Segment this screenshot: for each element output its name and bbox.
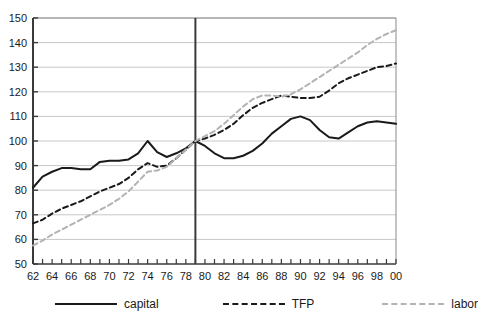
x-tick-label-82: 82 bbox=[218, 270, 230, 282]
x-tick-label-98: 98 bbox=[371, 270, 383, 282]
chart-legend: capital TFP labor bbox=[0, 292, 410, 316]
legend-label-capital: capital bbox=[124, 297, 159, 311]
legend-item-capital: capital bbox=[55, 297, 159, 311]
y-tick-label-80: 80 bbox=[15, 184, 27, 196]
x-tick-label-62: 62 bbox=[27, 270, 39, 282]
x-tick-label-70: 70 bbox=[103, 270, 115, 282]
y-tick-label-110: 110 bbox=[9, 110, 27, 122]
x-tick-label-94: 94 bbox=[333, 270, 345, 282]
series-line-tfp bbox=[33, 64, 396, 224]
data-series-group bbox=[33, 30, 396, 245]
y-tick-label-50: 50 bbox=[15, 258, 27, 270]
series-line-labor bbox=[33, 30, 396, 245]
y-tick-label-90: 90 bbox=[15, 160, 27, 172]
y-tick-label-70: 70 bbox=[15, 209, 27, 221]
gridlines bbox=[33, 18, 396, 239]
y-tick-label-100: 100 bbox=[9, 135, 27, 147]
x-tick-label-74: 74 bbox=[142, 270, 154, 282]
caption-artifact bbox=[10, 314, 80, 321]
y-tick-label-60: 60 bbox=[15, 233, 27, 245]
y-tick-label-140: 140 bbox=[9, 37, 27, 49]
x-tick-label-92: 92 bbox=[313, 270, 325, 282]
x-axis-tick-labels: 6264666870727476788082848688909294969800 bbox=[27, 270, 402, 282]
x-tick-label-66: 66 bbox=[65, 270, 77, 282]
x-tick-label-72: 72 bbox=[122, 270, 134, 282]
x-tick-label-84: 84 bbox=[237, 270, 249, 282]
x-tick-label-88: 88 bbox=[275, 270, 287, 282]
legend-item-tfp: TFP bbox=[223, 297, 315, 311]
legend-item-labor: labor bbox=[382, 297, 478, 311]
x-tick-label-00: 00 bbox=[390, 270, 402, 282]
y-tick-label-150: 150 bbox=[9, 12, 27, 24]
x-tick-label-86: 86 bbox=[256, 270, 268, 282]
x-tick-label-64: 64 bbox=[46, 270, 58, 282]
plot-area: 5060708090100110120130140150 62646668707… bbox=[0, 0, 410, 290]
x-tick-label-90: 90 bbox=[294, 270, 306, 282]
x-tick-label-96: 96 bbox=[352, 270, 364, 282]
dashed-dark-line-swatch bbox=[223, 299, 285, 309]
x-tick-label-78: 78 bbox=[180, 270, 192, 282]
y-axis-tick-labels: 5060708090100110120130140150 bbox=[9, 12, 27, 270]
x-tick-label-68: 68 bbox=[84, 270, 96, 282]
x-tick-label-76: 76 bbox=[161, 270, 173, 282]
x-tick-label-80: 80 bbox=[199, 270, 211, 282]
y-tick-label-130: 130 bbox=[9, 61, 27, 73]
series-line-capital bbox=[33, 116, 396, 187]
y-tick-label-120: 120 bbox=[9, 86, 27, 98]
dashed-light-line-swatch bbox=[382, 299, 444, 309]
legend-label-tfp: TFP bbox=[292, 297, 315, 311]
legend-label-labor: labor bbox=[451, 297, 478, 311]
chart-canvas: 5060708090100110120130140150 62646668707… bbox=[0, 0, 410, 290]
solid-line-swatch bbox=[55, 299, 117, 309]
